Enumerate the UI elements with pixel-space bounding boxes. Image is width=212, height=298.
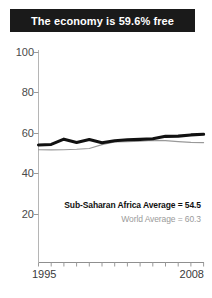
chart-title-banner: The economy is 59.6% free: [10, 9, 195, 32]
chart-svg: [0, 36, 212, 298]
chart-container: The economy is 59.6% free 100 80 60 40 2…: [0, 0, 212, 298]
x-tick-marks: [39, 263, 204, 267]
y-tick-marks: [34, 53, 39, 215]
series-line-country: [39, 134, 204, 145]
x-axis-labels: 1995 2008: [0, 268, 212, 286]
page-title: The economy is 59.6% free: [31, 15, 174, 27]
annotation-country-average: Sub-Saharan Africa Average = 54.5: [64, 200, 201, 210]
x-tick-label-start: 1995: [32, 268, 56, 280]
annotation-world-average: World Average = 60.3: [121, 214, 201, 224]
x-tick-label-end: 2008: [180, 268, 204, 280]
plot-area: [0, 36, 212, 298]
